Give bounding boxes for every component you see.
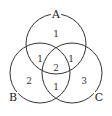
venn-diagram: ABC 1112213	[0, 0, 112, 116]
region-count-a-only: 1	[53, 29, 59, 39]
region-count-b-only: 2	[26, 76, 32, 86]
region-count-b-c: 1	[53, 82, 59, 92]
set-label-b: B	[9, 91, 17, 104]
set-label-c: C	[95, 91, 103, 104]
set-label-a: A	[51, 8, 61, 21]
region-count-c-only: 3	[81, 76, 87, 86]
set-circle-b	[10, 43, 70, 103]
region-count-a-b-c: 2	[53, 63, 59, 73]
region-count-a-b: 1	[37, 54, 43, 64]
set-circle-c	[42, 43, 102, 103]
region-count-a-c: 1	[68, 54, 74, 64]
